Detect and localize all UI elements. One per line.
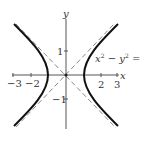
- y-axis-label: y: [62, 8, 69, 19]
- y-tick-label-1: 1: [57, 46, 63, 57]
- origin-dot: [64, 73, 67, 76]
- x-tick-label-3: 3: [114, 79, 120, 90]
- hyperbola-plot: y x −3 −2 2 3 1 −1 x2 − y2 = 1: [0, 0, 144, 153]
- x-tick-label-neg3: −3: [7, 78, 22, 89]
- equation-annotation: x2 − y2 = 1: [95, 52, 144, 64]
- y-tick-label-neg1: −1: [52, 94, 67, 105]
- x-tick-label-2: 2: [98, 79, 104, 90]
- x-tick-label-neg2: −2: [25, 78, 40, 89]
- x-axis-label: x: [120, 70, 126, 81]
